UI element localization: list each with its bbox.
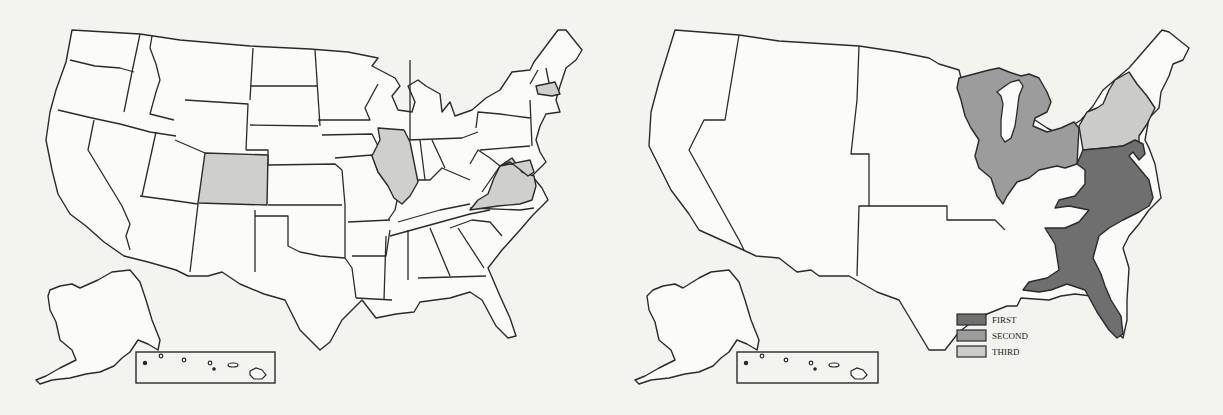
legend-label-third: THIRD — [992, 347, 1020, 357]
legend-swatch-third — [957, 346, 986, 357]
legend: FIRST SECOND THIRD — [957, 314, 1029, 357]
legend-label-second: SECOND — [992, 331, 1029, 341]
figure: FIRST SECOND THIRD — [0, 0, 1223, 415]
alaska-left — [36, 270, 160, 384]
left-state-map — [0, 0, 611, 415]
alaska-right — [635, 270, 759, 384]
legend-swatch-first — [957, 314, 986, 325]
legend-label-first: FIRST — [992, 315, 1017, 325]
hawaii-islands — [143, 354, 266, 379]
state-colorado — [198, 153, 268, 205]
right-region-map: FIRST SECOND THIRD — [610, 0, 1223, 415]
legend-swatch-second — [957, 330, 986, 341]
hawaii-islands-right — [744, 354, 867, 379]
